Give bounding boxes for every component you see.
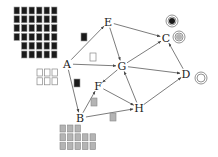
edge-G-C (127, 41, 161, 63)
node-D: D (182, 68, 191, 81)
grid-square (37, 42, 43, 49)
grid-square (37, 78, 43, 85)
edge-H-G (124, 72, 136, 103)
grid-square (52, 33, 58, 40)
grid-square (52, 42, 58, 49)
edge-marker-A-E (81, 33, 87, 41)
grid-square (37, 33, 43, 40)
grid-square (44, 33, 50, 40)
target-symbol-empty (195, 72, 207, 84)
node-C: C (162, 32, 170, 45)
grid-square (68, 125, 74, 132)
grid-square (60, 134, 66, 141)
nodes: AEGCDFHB (62, 16, 191, 125)
grid-square (37, 7, 43, 14)
node-G: G (118, 60, 127, 73)
node-E: E (104, 16, 112, 29)
edge-A-G (73, 64, 116, 66)
grid-square (44, 7, 50, 14)
grid-square (29, 16, 35, 23)
grid-square (14, 25, 20, 32)
grid-square (22, 16, 28, 23)
target-symbol-black-dot (166, 15, 178, 27)
grid-square (37, 69, 43, 76)
grid-square (29, 7, 35, 14)
grid-square (75, 125, 81, 132)
target-symbol-gray-dot (173, 31, 185, 43)
grid-square (37, 25, 43, 32)
grid-square (22, 51, 28, 58)
grid-square (29, 51, 35, 58)
grid-square (22, 33, 28, 40)
grid-square (29, 25, 35, 32)
edge-marker-A-B (74, 79, 80, 87)
edge-D-C (169, 43, 183, 69)
edge-F-H (103, 89, 133, 105)
edge-marker-B-H (110, 113, 116, 121)
grid-square (52, 16, 58, 23)
grid-square (14, 7, 20, 14)
grid-square (45, 78, 51, 85)
black-grid (14, 7, 57, 58)
grid-square (37, 16, 43, 23)
grid-square (60, 125, 66, 132)
grid-square (44, 51, 50, 58)
edge-markers (74, 33, 116, 121)
gray-grid (60, 125, 96, 150)
grid-square (45, 69, 51, 76)
node-A: A (62, 58, 72, 71)
grid-square (75, 134, 81, 141)
grid-square (14, 33, 20, 40)
edge-E-G (110, 28, 120, 61)
grid-square (52, 25, 58, 32)
node-B: B (76, 112, 84, 125)
grid-square (83, 134, 89, 141)
grid-square (14, 16, 20, 23)
edge-G-F (103, 70, 118, 82)
edge-H-D (144, 78, 181, 105)
white-grid (37, 69, 58, 85)
edge-A-B (68, 70, 78, 112)
grid-square (52, 69, 58, 76)
square-grids (14, 7, 96, 150)
grid-square (22, 25, 28, 32)
grid-square (52, 51, 58, 58)
grid-square (60, 143, 66, 150)
grid-square (90, 143, 96, 150)
edge-E-C (114, 24, 160, 37)
grid-square (52, 7, 58, 14)
grid-square (29, 33, 35, 40)
grid-square (37, 51, 43, 58)
grid-square (90, 134, 96, 141)
grid-square (52, 78, 58, 85)
node-F: F (94, 80, 102, 93)
grid-square (29, 42, 35, 49)
edge-G-D (128, 67, 180, 74)
edge-marker-B-F (91, 98, 97, 106)
node-H: H (134, 102, 144, 115)
grid-square (44, 25, 50, 32)
grid-square (22, 7, 28, 14)
grid-square (68, 134, 74, 141)
edge-marker-A-G (90, 53, 96, 61)
graph-diagram: AEGCDFHB (0, 0, 218, 157)
grid-square (83, 143, 89, 150)
grid-square (44, 42, 50, 49)
grid-square (75, 143, 81, 150)
grid-square (22, 42, 28, 49)
grid-square (68, 143, 74, 150)
edge-B-H (86, 109, 133, 117)
edge-A-E (71, 26, 104, 59)
grid-square (44, 16, 50, 23)
